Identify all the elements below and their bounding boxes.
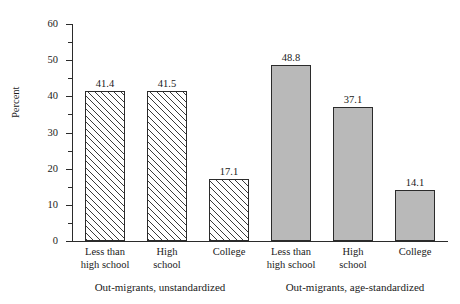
x-axis-category-label: Less thanhigh school: [257, 246, 325, 271]
bar-value-label: 37.1: [344, 94, 362, 105]
category-label-line2: high school: [71, 259, 139, 272]
bar-value-label: 17.1: [220, 166, 238, 177]
group-caption-unstandardized: Out-migrants, unstandardized: [60, 281, 260, 293]
plot-area: 41.441.517.148.837.114.1: [72, 24, 448, 241]
x-axis-category-label: Highschool: [319, 246, 387, 271]
bar: 48.8: [271, 65, 311, 241]
bar: 17.1: [209, 179, 249, 241]
y-axis-tick-label: 60: [30, 19, 58, 30]
category-label-line2: high school: [257, 259, 325, 272]
bar-chart: Percent 0102030405060 41.441.517.148.837…: [0, 0, 460, 304]
bar-value-label: 41.4: [96, 78, 114, 89]
bar: 37.1: [333, 107, 373, 241]
bar: 41.5: [147, 91, 187, 241]
category-label-line1: College: [195, 246, 263, 259]
y-axis-tick-label: 0: [30, 236, 58, 247]
category-label-line1: High: [319, 246, 387, 259]
bar-value-label: 14.1: [406, 177, 424, 188]
x-axis-category-label: Less thanhigh school: [71, 246, 139, 271]
y-axis-tick-label: 10: [30, 200, 58, 211]
bar: 41.4: [85, 91, 125, 241]
category-label-line1: Less than: [257, 246, 325, 259]
group-caption-age-standardized: Out-migrants, age-standardized: [250, 281, 460, 293]
bar: 14.1: [395, 190, 435, 241]
x-axis-line: [72, 241, 448, 242]
y-axis-tick-label: 30: [30, 128, 58, 139]
y-axis-tick-label: 50: [30, 55, 58, 66]
y-axis-title: Percent: [10, 87, 21, 119]
y-axis-tick-label: 20: [30, 164, 58, 175]
x-axis-category-label: Highschool: [133, 246, 201, 271]
bar-value-label: 41.5: [158, 78, 176, 89]
bar-value-label: 48.8: [282, 52, 300, 63]
x-axis-category-label: College: [195, 246, 263, 259]
category-label-line1: College: [381, 246, 449, 259]
category-label-line1: High: [133, 246, 201, 259]
category-label-line1: Less than: [71, 246, 139, 259]
y-axis-major-tick: [66, 241, 72, 242]
category-label-line2: school: [133, 259, 201, 272]
y-axis-tick-label: 40: [30, 91, 58, 102]
x-axis-category-label: College: [381, 246, 449, 259]
category-label-line2: school: [319, 259, 387, 272]
